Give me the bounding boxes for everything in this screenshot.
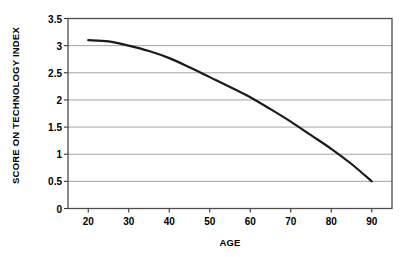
x-tick-label: 20 — [83, 216, 94, 227]
y-axis-label: SCORE ON TECHNOLOGY INDEX — [10, 27, 21, 184]
y-tick-label: 0 — [20, 203, 62, 214]
technology-index-chart: SCORE ON TECHNOLOGY INDEX AGE 00.511.522… — [0, 0, 410, 257]
x-tick-label: 80 — [326, 216, 337, 227]
plot-border — [68, 19, 392, 209]
x-tick-label: 50 — [204, 216, 215, 227]
y-tick-label: 3 — [20, 40, 62, 51]
x-tick-label: 60 — [245, 216, 256, 227]
y-tick-label: 1 — [20, 149, 62, 160]
x-tick-label: 40 — [164, 216, 175, 227]
x-tick-label: 70 — [285, 216, 296, 227]
y-tick-label: 1.5 — [20, 122, 62, 133]
x-axis-label-container: AGE — [68, 232, 392, 250]
y-tick-label: 0.5 — [20, 176, 62, 187]
y-tick-label: 2.5 — [20, 67, 62, 78]
x-tick-label: 90 — [366, 216, 377, 227]
y-tick-label: 3.5 — [20, 13, 62, 24]
y-tick-label: 2 — [20, 94, 62, 105]
x-axis-label: AGE — [219, 237, 240, 248]
data-series-line — [88, 40, 372, 181]
x-tick-label: 30 — [123, 216, 134, 227]
